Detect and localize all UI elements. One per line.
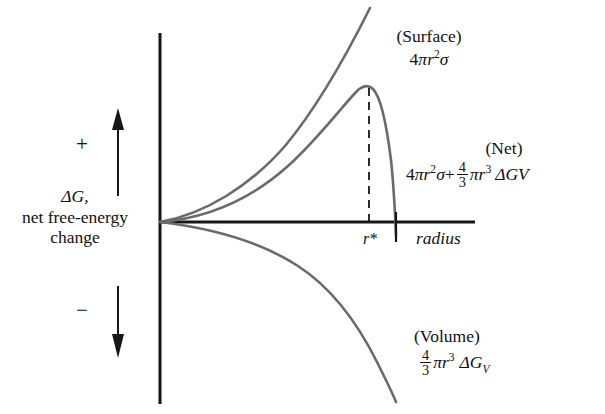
volume-formula-delta-g: ΔG [460,352,483,372]
surface-formula-sigma: σ [440,49,449,69]
critical-radius-label: r* [352,230,388,249]
volume-formula-fraction-denominator: 3 [420,362,431,378]
positive-sign-label: + [68,132,96,157]
volume-formula-delta-g-subscript: V [482,362,489,374]
surface-curve-formula: 4πr2σ [354,49,504,70]
net-formula-pi-1: π [415,164,424,184]
y-axis-label-line3: change [50,227,100,247]
volume-formula-fraction-numerator: 4 [420,348,431,363]
net-curve-formula: 4πr2σ+43πr3ΔGV [404,161,604,191]
positive-direction-arrow [112,108,124,196]
y-axis-label-line2: net free-energy [22,207,128,227]
net-formula-delta-g: ΔGV [495,164,529,184]
surface-curve-annotation: (Surface) 4πr2σ [354,26,504,69]
surface-formula-pi: π [418,49,427,69]
volume-curve-annotation: (Volume) 43πr3ΔGV [404,326,564,379]
negative-sign-label: − [68,298,96,323]
volume-formula-pi: π [433,352,442,372]
net-formula-coefficient: 4 [406,164,415,184]
net-formula-exponent-3: 3 [485,163,491,175]
volume-formula-exponent-3: 3 [449,351,455,363]
net-formula-sigma: σ [436,164,445,184]
net-formula-plus: + [445,164,455,184]
net-formula-fraction-denominator: 3 [457,174,468,190]
volume-curve-name: (Volume) [404,326,564,347]
volume-formula-fraction: 43 [420,348,431,378]
net-formula-pi-2: π [470,164,479,184]
negative-direction-arrow [112,286,124,358]
y-axis-label: ΔG, net free-energy change [0,186,150,248]
volume-energy-curve [160,222,396,402]
net-curve-annotation: (Net) 4πr2σ+43πr3ΔGV [404,138,604,191]
surface-energy-curve [160,8,370,222]
volume-curve-formula: 43πr3ΔGV [404,349,564,379]
surface-formula-r: r [427,49,434,69]
net-formula-fraction-numerator: 4 [457,160,468,175]
surface-curve-name: (Surface) [354,26,504,47]
critical-radius-label-text: r* [363,230,377,247]
x-axis-label: radius [416,228,461,249]
net-curve-name: (Net) [404,138,604,159]
net-formula-fraction: 43 [457,160,468,190]
nucleation-free-energy-figure: ΔG, net free-energy change radius + − r*… [0,0,605,414]
volume-formula-r: r [442,352,449,372]
y-axis-label-line1: ΔG, [61,186,88,206]
